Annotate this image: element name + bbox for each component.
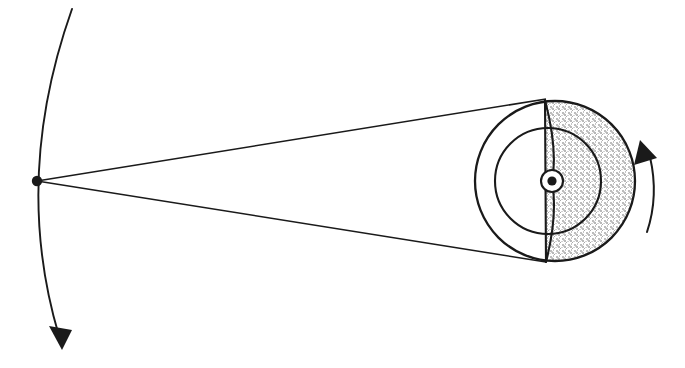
upper-sight-line xyxy=(37,99,546,181)
orbit-direction-arrowhead xyxy=(49,326,72,350)
diagram-canvas: Rotating disc viewed from a distant poin… xyxy=(0,0,685,368)
figure-svg xyxy=(0,0,685,368)
lower-sight-line xyxy=(37,181,546,262)
hub-center-dot xyxy=(547,176,556,185)
orbit-arc xyxy=(38,9,72,336)
rotation-direction-arc xyxy=(647,157,654,232)
rotation-direction-arrowhead xyxy=(634,140,657,165)
observation-point xyxy=(32,176,42,186)
